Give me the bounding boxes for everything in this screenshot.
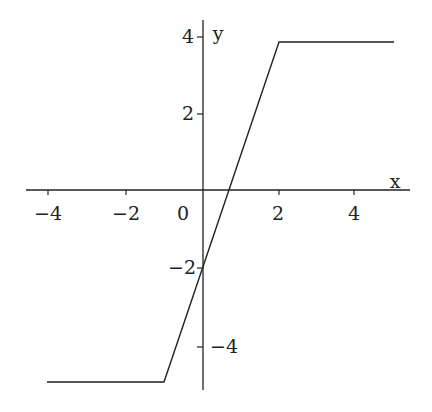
x-tick-label: −4 (34, 202, 62, 224)
y-tick-label: 2 (182, 102, 194, 124)
x-tick-label: −2 (112, 202, 140, 224)
y-tick-label: 4 (182, 25, 194, 47)
origin-label: 0 (177, 202, 189, 224)
y-axis-label: y (212, 22, 224, 44)
x-ticks (48, 190, 354, 195)
y-tick-label: −2 (168, 256, 196, 278)
x-axis-label: x (390, 170, 401, 192)
chart: −4 −2 0 2 4 4 2 −2 −4 x y (0, 0, 432, 412)
x-tick-label: 2 (272, 202, 284, 224)
y-tick-label: −4 (210, 335, 238, 357)
x-tick-label: 4 (348, 202, 360, 224)
data-line (47, 42, 394, 382)
y-ticks (197, 37, 203, 347)
